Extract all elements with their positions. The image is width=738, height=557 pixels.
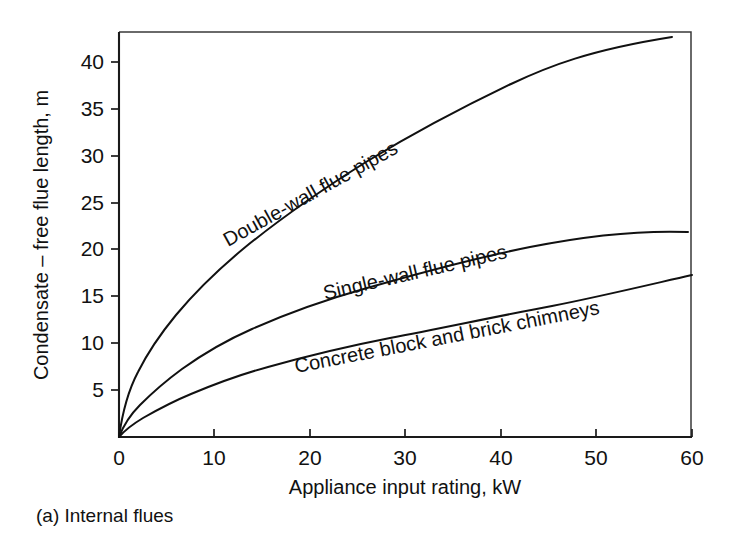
y-tick-label: 35 (81, 97, 104, 120)
y-tick-label: 30 (81, 144, 104, 167)
x-tick-label: 10 (202, 446, 225, 469)
y-tick-label: 10 (81, 331, 104, 354)
chart-canvas: 5 10 15 20 25 30 35 40 0 10 20 30 40 50 (0, 0, 738, 557)
x-axis-title: Appliance input rating, kW (289, 476, 521, 498)
x-axis-ticks (119, 429, 692, 437)
y-axis-title: Condensate – free flue length, m (30, 90, 52, 380)
y-tick-label: 40 (81, 50, 104, 73)
x-tick-label: 0 (113, 446, 125, 469)
y-axis-ticks (111, 62, 119, 390)
series-line-concrete-block-and-brick-chimneys (119, 275, 692, 437)
series-label-single-wall-flue-pipes: Single-wall flue pipes (321, 240, 509, 304)
y-tick-label: 20 (81, 237, 104, 260)
y-axis-tick-labels: 5 10 15 20 25 30 35 40 (81, 50, 104, 401)
x-tick-label: 50 (584, 446, 607, 469)
y-tick-label: 25 (81, 191, 104, 214)
x-axis-tick-labels: 0 10 20 30 40 50 60 (113, 446, 704, 469)
figure-caption: (a) Internal flues (36, 505, 173, 527)
y-tick-label: 15 (81, 284, 104, 307)
x-tick-label: 60 (680, 446, 703, 469)
x-tick-label: 40 (489, 446, 512, 469)
figure-container: 5 10 15 20 25 30 35 40 0 10 20 30 40 50 (0, 0, 738, 557)
x-tick-label: 30 (393, 446, 416, 469)
series-label-concrete-block-and-brick-chimneys: Concrete block and brick chimneys (293, 296, 602, 377)
y-tick-label: 5 (92, 378, 104, 401)
x-tick-label: 20 (298, 446, 321, 469)
series-label-double-wall-flue-pipes: Double-wall flue pipes (219, 136, 401, 250)
